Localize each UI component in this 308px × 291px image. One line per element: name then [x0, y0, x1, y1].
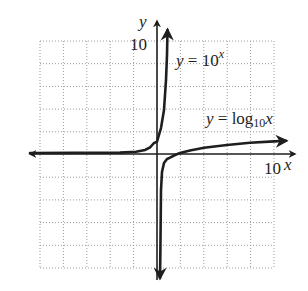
exp-label-text: = 10	[184, 51, 219, 70]
log-label-y: y	[206, 109, 214, 128]
y-axis-label: y	[139, 13, 147, 30]
exp-curve-label: y = 10x	[176, 48, 224, 69]
log-label-text: = log	[214, 109, 254, 128]
log-label-x: x	[265, 109, 273, 128]
x-tick-label-10: 10	[264, 160, 281, 177]
exp-label-y: y	[176, 51, 184, 70]
exp-label-sup: x	[219, 47, 224, 61]
y-tick-label-10: 10	[130, 36, 147, 53]
axes	[30, 21, 295, 280]
x-axis-label: x	[284, 156, 292, 173]
graph-canvas	[0, 0, 308, 291]
log-label-sub: 10	[253, 116, 265, 130]
log-curve-label: y = log10x	[206, 110, 273, 129]
